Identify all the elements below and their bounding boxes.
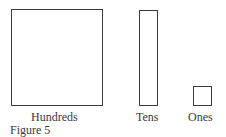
ones-block	[193, 86, 212, 106]
hundreds-label: Hundreds	[31, 111, 78, 123]
ones-label: Ones	[188, 111, 213, 123]
tens-block	[139, 10, 158, 106]
hundreds-block	[11, 9, 103, 106]
tens-label: Tens	[136, 111, 159, 123]
figure-caption: Figure 5	[10, 124, 50, 136]
